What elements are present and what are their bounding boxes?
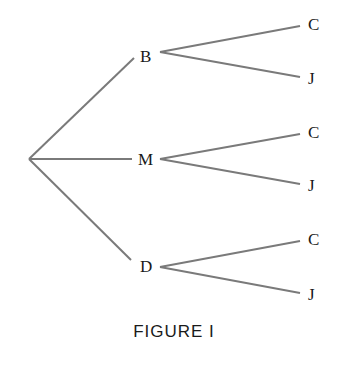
- edge-b-c: [160, 26, 300, 52]
- tree-diagram: B C J M C J D C J FIGURE I: [0, 0, 347, 373]
- node-b: B: [140, 47, 151, 66]
- edge-d-c: [160, 241, 300, 267]
- branch-d: D C J: [140, 230, 319, 304]
- branch-m: M C J: [138, 123, 319, 195]
- branch-b: B C J: [140, 15, 319, 88]
- edge-b-j: [160, 52, 300, 77]
- edge-m-j: [160, 159, 300, 184]
- node-d: D: [140, 257, 152, 276]
- node-d-c: C: [308, 230, 319, 249]
- edge-root-d: [29, 159, 131, 260]
- root-edges: [29, 58, 134, 260]
- edge-m-c: [160, 134, 300, 159]
- node-d-j: J: [308, 285, 315, 304]
- node-b-c: C: [308, 15, 319, 34]
- edge-root-b: [29, 58, 134, 159]
- node-m-c: C: [308, 123, 319, 142]
- node-m: M: [138, 150, 153, 169]
- figure-caption: FIGURE I: [133, 322, 215, 341]
- node-m-j: J: [308, 176, 315, 195]
- node-b-j: J: [308, 69, 315, 88]
- edge-d-j: [160, 267, 300, 293]
